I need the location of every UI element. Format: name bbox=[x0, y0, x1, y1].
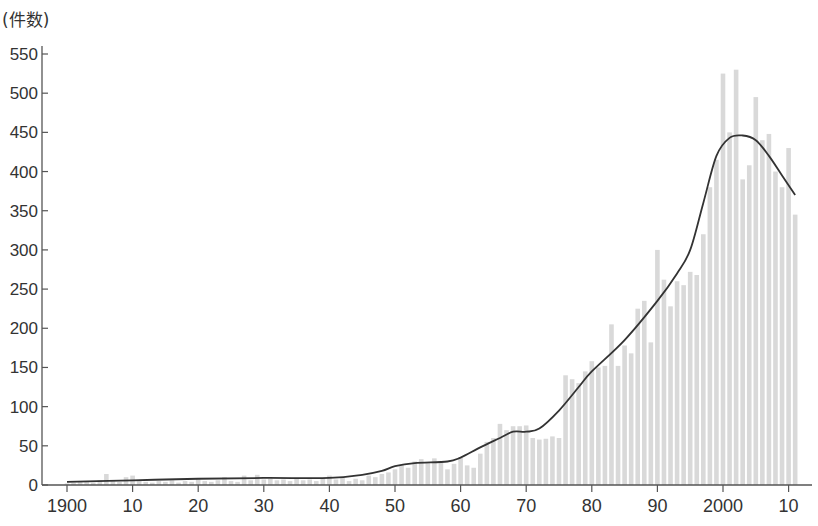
bar bbox=[563, 375, 568, 485]
bar bbox=[340, 478, 345, 485]
bar bbox=[255, 475, 260, 485]
x-tick-label: 1900 bbox=[47, 496, 87, 516]
bar bbox=[170, 480, 175, 485]
bar bbox=[366, 476, 371, 485]
bar bbox=[786, 148, 791, 485]
bar bbox=[708, 187, 713, 485]
x-tick-label: 80 bbox=[582, 496, 602, 516]
bar bbox=[655, 250, 660, 485]
x-tick-label: 10 bbox=[123, 496, 143, 516]
bar bbox=[721, 74, 726, 485]
bar bbox=[262, 480, 267, 485]
bar bbox=[334, 480, 339, 485]
y-tick-label: 150 bbox=[10, 358, 38, 377]
bar bbox=[294, 479, 299, 485]
bar bbox=[668, 306, 673, 485]
bar bbox=[583, 371, 588, 485]
bar bbox=[524, 425, 529, 485]
bar bbox=[439, 461, 444, 485]
x-tick-label: 40 bbox=[319, 496, 339, 516]
x-tick-label: 30 bbox=[254, 496, 274, 516]
bar bbox=[629, 353, 634, 485]
bar bbox=[301, 480, 306, 485]
bar bbox=[248, 480, 253, 485]
bar bbox=[517, 426, 522, 485]
bar bbox=[104, 474, 109, 485]
bar bbox=[714, 160, 719, 485]
bar bbox=[694, 275, 699, 485]
bar bbox=[754, 97, 759, 485]
bar-chart: 0501001502002503003504004505005501900102… bbox=[0, 0, 818, 526]
bar bbox=[662, 280, 667, 485]
bar bbox=[596, 367, 601, 485]
x-tick-label: 10 bbox=[779, 496, 799, 516]
bar bbox=[544, 439, 549, 485]
bar bbox=[242, 476, 247, 485]
bar bbox=[609, 324, 614, 485]
y-tick-label: 500 bbox=[10, 84, 38, 103]
x-tick-label: 2000 bbox=[703, 496, 743, 516]
bar bbox=[675, 281, 680, 485]
bar bbox=[616, 366, 621, 485]
bar bbox=[386, 472, 391, 485]
bar bbox=[530, 438, 535, 485]
bar bbox=[458, 458, 463, 485]
bar bbox=[642, 301, 647, 485]
bar bbox=[353, 479, 358, 485]
bar bbox=[635, 309, 640, 485]
bar bbox=[406, 468, 411, 485]
y-tick-label: 550 bbox=[10, 45, 38, 64]
x-tick-label: 70 bbox=[516, 496, 536, 516]
bar bbox=[734, 70, 739, 485]
x-tick-label: 50 bbox=[385, 496, 405, 516]
bar bbox=[760, 140, 765, 485]
bar bbox=[452, 464, 457, 485]
bar bbox=[360, 480, 365, 485]
bar bbox=[216, 480, 221, 485]
bar bbox=[426, 463, 431, 485]
bar bbox=[793, 215, 798, 485]
bar bbox=[196, 479, 201, 485]
bar bbox=[780, 187, 785, 485]
y-tick-label: 300 bbox=[10, 241, 38, 260]
bar bbox=[504, 430, 509, 485]
bar bbox=[491, 438, 496, 485]
bar bbox=[740, 179, 745, 485]
bar bbox=[576, 383, 581, 485]
bar bbox=[590, 361, 595, 485]
y-tick-label: 450 bbox=[10, 123, 38, 142]
bar bbox=[465, 465, 470, 485]
x-tick-label: 90 bbox=[647, 496, 667, 516]
bar bbox=[511, 426, 516, 485]
bars bbox=[65, 70, 798, 485]
bar bbox=[603, 366, 608, 485]
y-tick-label: 0 bbox=[29, 476, 38, 495]
bar bbox=[681, 285, 686, 485]
bar bbox=[537, 440, 542, 485]
bar bbox=[485, 442, 490, 485]
bar bbox=[281, 480, 286, 485]
bar bbox=[498, 424, 503, 485]
y-tick-label: 50 bbox=[19, 437, 38, 456]
bar bbox=[557, 438, 562, 485]
bar bbox=[445, 469, 450, 485]
bar bbox=[307, 480, 312, 485]
y-tick-label: 250 bbox=[10, 280, 38, 299]
y-tick-label: 400 bbox=[10, 163, 38, 182]
y-tick-label: 200 bbox=[10, 319, 38, 338]
bar bbox=[622, 346, 627, 485]
bar bbox=[550, 436, 555, 485]
bar bbox=[727, 132, 732, 485]
bar bbox=[412, 461, 417, 485]
bar bbox=[688, 272, 693, 485]
bar bbox=[399, 465, 404, 485]
bar bbox=[380, 474, 385, 485]
bar bbox=[373, 477, 378, 485]
bar bbox=[268, 479, 273, 485]
bar bbox=[773, 172, 778, 485]
bar bbox=[747, 165, 752, 485]
x-tick-label: 20 bbox=[188, 496, 208, 516]
bar bbox=[767, 134, 772, 485]
bar bbox=[321, 478, 326, 485]
bar bbox=[478, 454, 483, 485]
